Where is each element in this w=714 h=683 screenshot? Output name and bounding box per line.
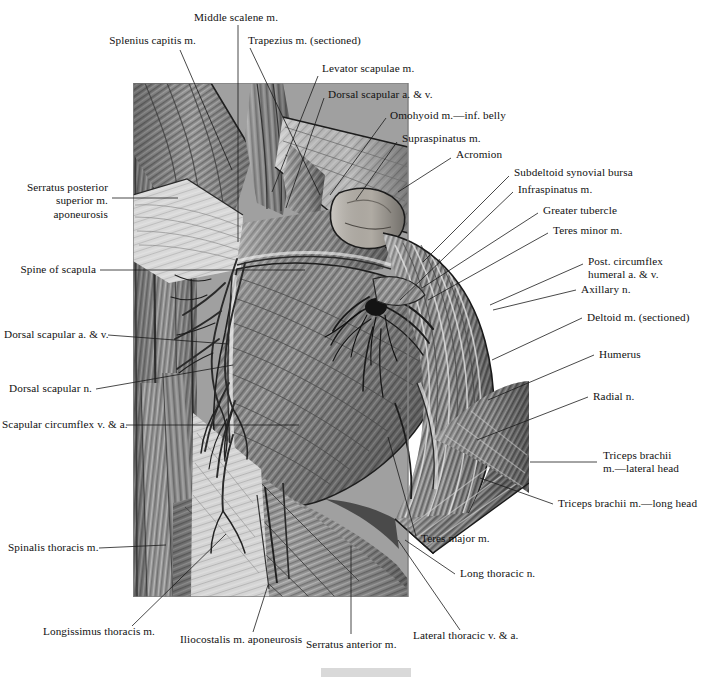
label-humerus: Humerus xyxy=(599,348,641,361)
label-long-thoracic-n: Long thoracic n. xyxy=(460,567,535,580)
label-dorsal-scapular-av-top: Dorsal scapular a. & v. xyxy=(328,88,433,101)
label-longissimus-thoracis: Longissimus thoracis m. xyxy=(43,625,155,638)
label-deltoid-sectioned: Deltoid m. (sectioned) xyxy=(587,311,690,324)
label-dorsal-scapular-av-left: Dorsal scapular a. & v. xyxy=(4,328,104,341)
label-subdeltoid-synovial-bursa: Subdeltoid synovial bursa xyxy=(514,166,633,179)
label-scapular-circumflex: Scapular circumflex v. & a. xyxy=(2,418,122,431)
label-teres-minor: Teres minor m. xyxy=(553,224,622,237)
label-post-circumflex-humeral: Post. circumflex humeral a. & v. xyxy=(588,255,663,282)
label-serratus-anterior: Serratus anterior m. xyxy=(306,638,397,651)
label-greater-tubercle: Greater tubercle xyxy=(543,204,617,217)
label-lateral-thoracic: Lateral thoracic v. & a. xyxy=(413,629,518,642)
label-supraspinatus: Supraspinatus m. xyxy=(402,132,481,145)
label-serratus-posterior-superior: Serratus posterior superior m. aponeuros… xyxy=(8,181,108,221)
label-levator-scapulae: Levator scapulae m. xyxy=(322,62,414,75)
label-acromion: Acromion xyxy=(456,148,502,161)
label-axillary-n: Axillary n. xyxy=(581,283,631,296)
label-radial-n: Radial n. xyxy=(593,390,634,403)
label-infraspinatus: Infraspinatus m. xyxy=(518,183,592,196)
label-middle-scalene: Middle scalene m. xyxy=(194,11,278,24)
footer-bar xyxy=(321,668,411,677)
label-spinalis-thoracis: Spinalis thoracis m. xyxy=(8,541,96,554)
label-splenius-capitis: Splenius capitis m. xyxy=(18,34,196,47)
label-spine-of-scapula: Spine of scapula xyxy=(8,263,96,276)
label-iliocostalis-aponeurosis: Iliocostalis m. aponeurosis xyxy=(180,633,302,646)
anatomy-plate: Splenius capitis m. Middle scalene m. Tr… xyxy=(0,0,714,683)
label-dorsal-scapular-n: Dorsal scapular n. xyxy=(8,382,92,395)
label-trapezius-sectioned: Trapezius m. (sectioned) xyxy=(248,34,361,47)
label-teres-major: Teres major m. xyxy=(421,532,490,545)
label-triceps-lateral-head: Triceps brachii m.—lateral head xyxy=(603,449,679,476)
label-omohyoid-inf-belly: Omohyoid m.—inf. belly xyxy=(390,109,506,122)
label-triceps-long-head: Triceps brachii m.—long head xyxy=(558,497,697,510)
